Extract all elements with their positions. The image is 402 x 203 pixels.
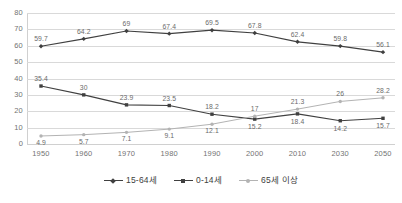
- data-label-15-64세-2050: 56.1: [376, 41, 390, 48]
- data-point-65세 이상-1980: [168, 127, 171, 130]
- data-point-15-64세-1970: [124, 29, 128, 33]
- data-label-65세 이상-1980: 9.1: [164, 132, 174, 139]
- legend-item-15-64세[interactable]: 15-64세: [104, 176, 157, 185]
- x-tick-label-1950: 1950: [21, 150, 61, 158]
- data-label-15-64세-1960: 64.2: [77, 28, 91, 35]
- data-point-15-64세-1990: [210, 28, 214, 32]
- data-point-0-14세-1990: [210, 112, 213, 115]
- y-tick-label-50: 50: [1, 58, 23, 66]
- data-point-0-14세-2030: [339, 119, 342, 122]
- data-label-0-14세-1990: 18.2: [205, 103, 219, 110]
- x-tick-label-2050: 2050: [363, 150, 402, 158]
- data-point-0-14세-2010: [296, 112, 299, 115]
- series-line-15-64세: [41, 30, 383, 52]
- data-label-15-64세-2010: 62.4: [291, 31, 305, 38]
- x-tick-label-1960: 1960: [64, 150, 104, 158]
- legend-item-0-14세[interactable]: 0-14세: [174, 176, 222, 185]
- data-label-65세 이상-2010: 21.3: [291, 98, 305, 105]
- legend-swatch-square-icon: [174, 177, 193, 185]
- data-label-65세 이상-1990: 12.1: [205, 127, 219, 134]
- data-label-65세 이상-1960: 5.7: [79, 138, 89, 145]
- data-point-15-64세-2010: [295, 40, 299, 44]
- data-point-15-64세-1960: [82, 37, 86, 41]
- data-point-0-14세-1950: [39, 84, 42, 87]
- x-tick-label-2000: 2000: [235, 150, 275, 158]
- data-point-15-64세-2030: [338, 44, 342, 48]
- data-label-0-14세-1980: 23.5: [162, 95, 176, 102]
- data-label-15-64세-1970: 69: [123, 20, 131, 27]
- y-tick-label-60: 60: [1, 42, 23, 50]
- data-label-0-14세-1970: 23.9: [120, 94, 134, 101]
- data-point-65세 이상-2010: [296, 107, 299, 110]
- data-point-65세 이상-2000: [253, 114, 256, 117]
- data-point-65세 이상-1970: [125, 131, 128, 134]
- legend-label: 0-14세: [196, 176, 222, 185]
- data-point-65세 이상-1990: [210, 122, 213, 125]
- x-tick-label-1990: 1990: [192, 150, 232, 158]
- data-point-15-64세-2000: [253, 31, 257, 35]
- legend-label: 65세 이상: [261, 176, 298, 185]
- data-label-15-64세-2000: 67.8: [248, 22, 262, 29]
- data-label-0-14세-2010: 18.4: [291, 118, 305, 125]
- legend-item-65세 이상[interactable]: 65세 이상: [239, 176, 298, 185]
- data-point-65세 이상-1950: [39, 134, 42, 137]
- plot-area: 59.764.26967.469.567.862.459.856.135.430…: [27, 13, 395, 144]
- data-label-15-64세-2030: 59.8: [333, 35, 347, 42]
- line-chart: 01020304050607080 59.764.26967.469.567.8…: [0, 0, 402, 203]
- data-point-0-14세-1960: [82, 93, 85, 96]
- data-point-65세 이상-2030: [339, 100, 342, 103]
- legend-label: 15-64세: [126, 176, 157, 185]
- data-point-15-64세-1950: [39, 44, 43, 48]
- legend-swatch-circle-icon: [239, 177, 258, 185]
- data-point-0-14세-1980: [168, 104, 171, 107]
- y-tick-label-40: 40: [1, 75, 23, 83]
- data-point-0-14세-1970: [125, 103, 128, 106]
- y-tick-label-30: 30: [1, 91, 23, 99]
- chart-legend: 15-64세0-14세65세 이상: [0, 176, 402, 185]
- data-point-0-14세-2050: [381, 117, 384, 120]
- data-label-65세 이상-2030: 26: [336, 90, 344, 97]
- legend-swatch-diamond-icon: [104, 177, 123, 185]
- data-label-15-64세-1950: 59.7: [34, 35, 48, 42]
- y-tick-label-20: 20: [1, 107, 23, 115]
- data-point-65세 이상-1960: [82, 133, 85, 136]
- data-label-65세 이상-2050: 28.2: [376, 87, 390, 94]
- data-label-0-14세-2000: 15.2: [248, 123, 262, 130]
- data-point-15-64세-2050: [381, 50, 385, 54]
- x-tick-label-2030: 2030: [320, 150, 360, 158]
- data-label-0-14세-2030: 14.2: [333, 125, 347, 132]
- data-label-65세 이상-1950: 4.9: [36, 139, 46, 146]
- data-label-0-14세-1960: 30: [80, 84, 88, 91]
- x-tick-label-2010: 2010: [278, 150, 318, 158]
- y-tick-label-10: 10: [1, 124, 23, 132]
- data-label-0-14세-2050: 15.7: [376, 122, 390, 129]
- data-label-15-64세-1980: 67.4: [162, 23, 176, 30]
- data-label-15-64세-1990: 69.5: [205, 19, 219, 26]
- y-tick-label-80: 80: [1, 9, 23, 17]
- data-label-65세 이상-1970: 7.1: [122, 135, 132, 142]
- data-label-0-14세-1950: 35.4: [34, 75, 48, 82]
- y-tick-label-70: 70: [1, 25, 23, 33]
- data-point-15-64세-1980: [167, 31, 171, 35]
- data-point-65세 이상-2050: [381, 96, 384, 99]
- x-tick-label-1980: 1980: [149, 150, 189, 158]
- data-label-65세 이상-2000: 17: [251, 105, 259, 112]
- y-tick-label-0: 0: [1, 140, 23, 148]
- x-tick-label-1970: 1970: [107, 150, 147, 158]
- data-point-0-14세-2000: [253, 117, 256, 120]
